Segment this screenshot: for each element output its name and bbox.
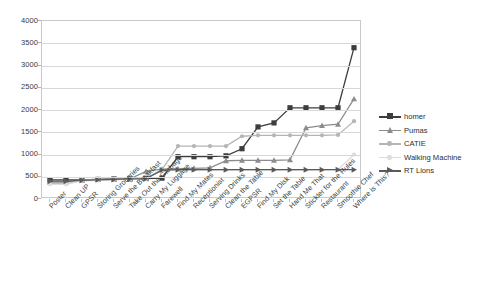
legend-label: RT Lions [404,165,434,176]
y-axis-tick [38,198,41,199]
gridline [42,155,360,156]
y-axis-tick-label: 4000 [0,16,38,25]
legend-marker-circle-icon [379,138,401,149]
legend-label: Walking Machine [404,152,462,163]
data-point-arrow-right-marker [352,167,357,173]
data-point-circle-marker [208,144,212,148]
legend-label: Pumas [404,125,428,136]
data-point-square-marker [351,45,356,50]
data-point-circle-marker [320,133,324,137]
legend-item-rt-lions: RT Lions [379,164,479,178]
data-point-circle-marker [304,133,308,137]
data-point-circle-marker [288,133,292,137]
y-axis-tick [38,87,41,88]
legend-label: homer [404,111,426,122]
legend-marker-arrow-right-icon [379,165,401,176]
series-line [50,48,354,180]
y-axis-tick-label: 2000 [0,105,38,114]
data-point-circle-marker [336,133,340,137]
legend-item-pumas: Pumas [379,124,479,138]
data-point-square-marker [255,124,260,129]
y-axis-tick [38,176,41,177]
y-axis-tick [38,154,41,155]
data-point-triangle-marker [351,96,357,101]
gridline [42,110,360,111]
legend-item-walking-machine: Walking Machine [379,151,479,165]
y-axis-tick-label: 0 [0,194,38,203]
data-point-square-marker [271,120,276,125]
y-axis-tick-label: 500 [0,171,38,180]
legend-marker-triangle-icon [379,125,401,136]
y-axis-tick-label: 1000 [0,149,38,158]
y-axis-tick [38,65,41,66]
y-axis-tick-label: 1500 [0,127,38,136]
plot-area [41,20,361,198]
legend-marker-circle-light-icon [379,152,401,163]
data-point-circle-marker [272,133,276,137]
data-point-square-marker [239,146,244,151]
y-axis-tick [38,20,41,21]
legend-marker-square-icon [379,111,401,122]
data-point-circle-marker [352,119,356,123]
data-point-circle-marker [240,134,244,138]
data-point-circle-marker [176,144,180,148]
legend-item-catie: CATIE [379,137,479,151]
legend-label: CATIE [404,138,426,149]
y-axis-tick-label: 2500 [0,82,38,91]
legend-item-homer: homer [379,110,479,124]
y-axis-tick-label: 3000 [0,60,38,69]
y-axis-tick [38,42,41,43]
series-line [50,121,354,184]
data-point-circle-marker [256,133,260,137]
y-axis-tick-label: 3500 [0,38,38,47]
y-axis-tick [38,109,41,110]
chart-container: PosterClean UPGPSRStoring GroceriesServe… [0,0,481,286]
chart-legend: homer Pumas CATIE Walking Machine [379,110,479,178]
data-point-circle-marker [224,144,228,148]
gridline [42,88,360,89]
gridline [42,43,360,44]
gridline [42,66,360,67]
x-axis-labels: PosterClean UPGPSRStoring GroceriesServe… [41,199,361,286]
y-axis-tick [38,131,41,132]
gridline [42,132,360,133]
data-point-circle-marker [192,144,196,148]
